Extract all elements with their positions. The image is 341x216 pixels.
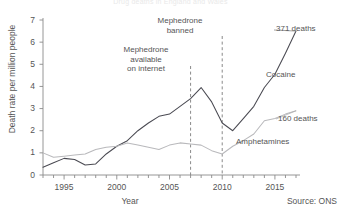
source-note: Source: ONS	[287, 196, 337, 206]
annotation-mephedrone-banned: Mephedrone banned	[141, 16, 219, 35]
chart-container: Drug deaths in England and Wales Death r…	[0, 0, 341, 216]
series-label-cocaine: Cocaine	[266, 70, 295, 80]
annotation-mephedrone-banned-line2: banned	[141, 26, 219, 36]
annotation-mephedrone-banned-line1: Mephedrone	[141, 16, 219, 26]
annotation-dashed-lines	[191, 36, 223, 175]
annotation-mephedrone-available-line3: on internet	[109, 64, 183, 74]
series-label-cocaine-deaths: 371 deaths	[276, 24, 316, 34]
axis-lines	[40, 18, 301, 180]
series-label-amphetamines: Amphetamines	[236, 137, 289, 147]
series-label-amphetamines-deaths: 160 deaths	[278, 114, 318, 124]
annotation-mephedrone-available-line2: available	[109, 55, 183, 65]
x-axis-title: Year	[0, 196, 260, 206]
annotation-mephedrone-available-line1: Mephedrone	[109, 45, 183, 55]
annotation-mephedrone-available: Mephedrone available on internet	[109, 45, 183, 74]
